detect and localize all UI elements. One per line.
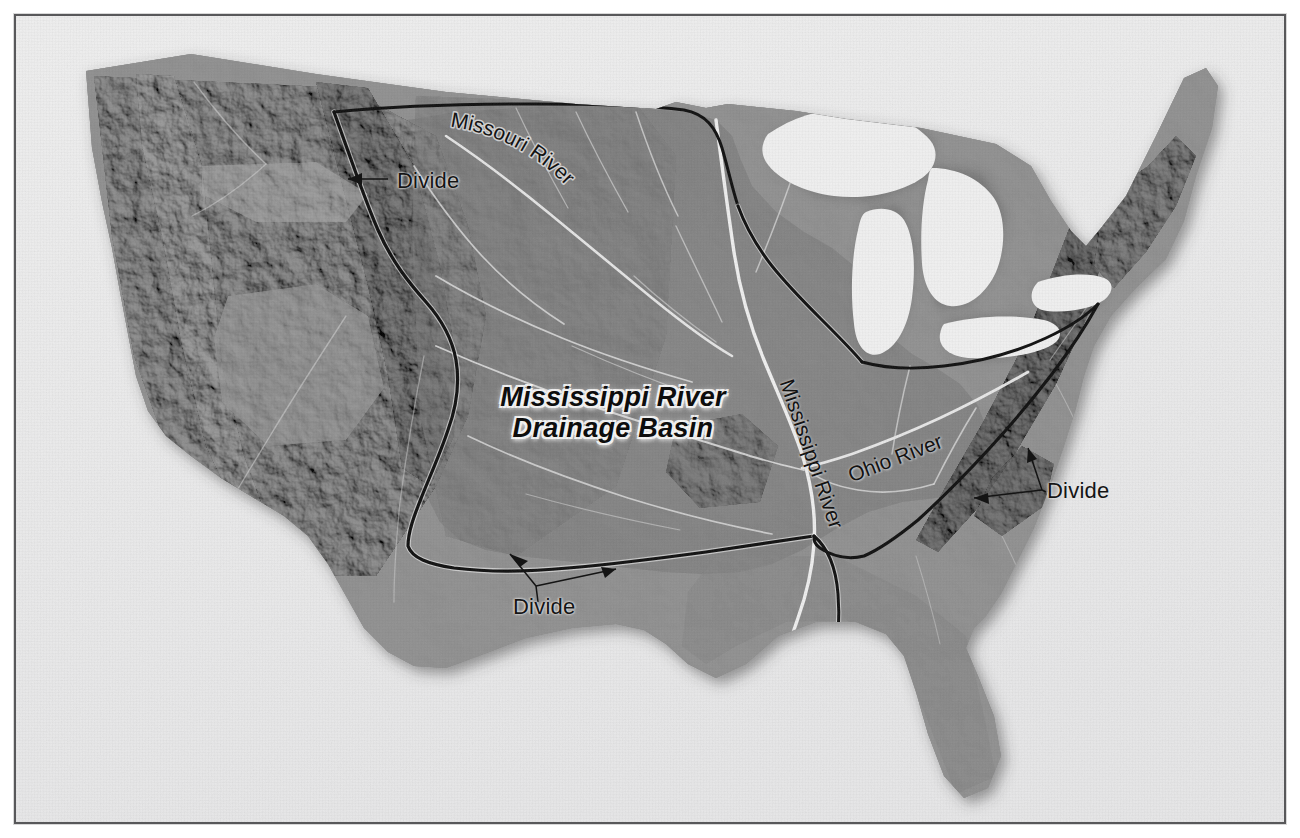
figure-frame: Missouri River Mississippi River Drainag… bbox=[14, 14, 1286, 824]
basin-title-line1: Mississippi River bbox=[468, 382, 758, 413]
basin-title: Mississippi River Drainage Basin bbox=[468, 382, 758, 444]
basin-title-line2: Drainage Basin bbox=[468, 413, 758, 444]
divide-label-east: Divide bbox=[1047, 478, 1109, 504]
missouri-river-label: Missouri River bbox=[449, 108, 579, 189]
figure-page: Missouri River Mississippi River Drainag… bbox=[0, 0, 1300, 838]
map-canvas: Missouri River Mississippi River Drainag… bbox=[16, 16, 1284, 822]
divide-label-northwest: Divide bbox=[397, 168, 459, 194]
divide-label-south: Divide bbox=[513, 594, 575, 620]
